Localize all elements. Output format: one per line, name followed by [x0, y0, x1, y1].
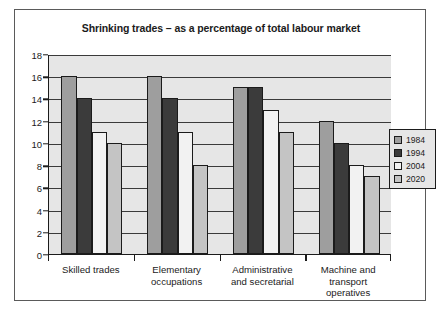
- chart-legend: 1984199420042020: [389, 129, 436, 189]
- y-axis-tick-label: 16: [31, 72, 42, 83]
- bar: [248, 87, 263, 254]
- legend-swatch-icon: [394, 136, 402, 144]
- bar: [178, 132, 193, 254]
- bar: [334, 143, 349, 254]
- y-axis-tick-label: 10: [31, 138, 42, 149]
- x-axis-category-label: Machine andtransportoperatives: [305, 264, 391, 299]
- bar: [61, 76, 76, 254]
- bar: [233, 87, 248, 254]
- legend-item[interactable]: 2020: [394, 172, 432, 185]
- bar: [319, 121, 334, 254]
- legend-swatch-icon: [394, 149, 402, 157]
- y-axis-tick-label: 0: [37, 250, 42, 261]
- bar: [263, 110, 278, 254]
- x-axis-tick-mark: [305, 255, 306, 261]
- chart-frame: Shrinking trades – as a percentage of to…: [14, 9, 426, 301]
- x-axis-tick-mark: [134, 255, 135, 261]
- legend-item[interactable]: 1984: [394, 133, 432, 146]
- bar-group: [221, 55, 307, 254]
- y-axis-tick-label: 14: [31, 94, 42, 105]
- y-axis-tick-label: 2: [37, 227, 42, 238]
- x-axis-tick-mark: [390, 255, 391, 261]
- y-axis-tick-label: 8: [37, 161, 42, 172]
- x-axis-category-label: Skilled trades: [48, 264, 134, 276]
- legend-item[interactable]: 2004: [394, 159, 432, 172]
- bar: [364, 176, 379, 254]
- legend-item[interactable]: 1994: [394, 146, 432, 159]
- bar: [147, 76, 162, 254]
- y-axis: 024681012141618: [15, 55, 48, 255]
- y-axis-tick-label: 18: [31, 50, 42, 61]
- legend-item-label: 2004: [406, 161, 425, 171]
- chart-title: Shrinking trades – as a percentage of to…: [15, 22, 427, 34]
- legend-swatch-icon: [394, 162, 402, 170]
- plot-area: [48, 55, 391, 255]
- bar: [77, 98, 92, 254]
- y-axis-tick-label: 6: [37, 183, 42, 194]
- bar: [349, 165, 364, 254]
- bar: [193, 165, 208, 254]
- bar-series-container: [49, 55, 391, 254]
- bar-group: [135, 55, 221, 254]
- x-axis-category-label: Elementaryoccupations: [134, 264, 220, 287]
- x-axis-tick-mark: [220, 255, 221, 261]
- bar: [279, 132, 294, 254]
- x-axis-category-label: Administrativeand secretarial: [220, 264, 306, 287]
- y-axis-tick-label: 4: [37, 205, 42, 216]
- x-axis: Skilled tradesElementaryoccupationsAdmin…: [48, 255, 391, 314]
- bar-group: [306, 55, 392, 254]
- bar: [162, 98, 177, 254]
- bar: [107, 143, 122, 254]
- legend-item-label: 1994: [406, 148, 425, 158]
- bar-group: [49, 55, 135, 254]
- legend-swatch-icon: [394, 175, 402, 183]
- y-axis-tick-label: 12: [31, 116, 42, 127]
- bar: [92, 132, 107, 254]
- legend-item-label: 1984: [406, 135, 425, 145]
- x-axis-tick-mark: [48, 255, 49, 261]
- legend-item-label: 2020: [406, 174, 425, 184]
